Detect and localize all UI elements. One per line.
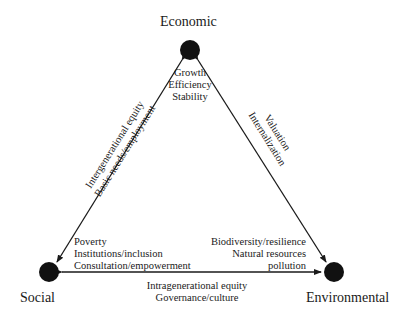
environmental-notes: Biodiversity/resilience Natural resource… (196, 236, 306, 272)
economic-note: Stability (160, 91, 220, 103)
social-notes: Poverty Institutions/inclusion Consultat… (74, 236, 191, 272)
triangle-diagram (0, 0, 405, 320)
edge-note: Intragenerational equity (132, 280, 262, 292)
environmental-note: Natural resources (196, 248, 306, 260)
node-environmental (324, 262, 344, 282)
node-social (39, 262, 59, 282)
edge-note: Governance/culture (132, 292, 262, 304)
social-note: Consultation/empowerment (74, 260, 191, 272)
social-note: Poverty (74, 236, 191, 248)
economic-note: Efficiency (160, 79, 220, 91)
label-economic: Economic (160, 14, 217, 30)
social-note: Institutions/inclusion (74, 248, 191, 260)
environmental-note: Biodiversity/resilience (196, 236, 306, 248)
economic-notes: Growth Efficiency Stability (160, 67, 220, 103)
node-economic (180, 40, 200, 60)
economic-note: Growth (160, 67, 220, 79)
edge-label-social-environmental: Intragenerational equity Governance/cult… (132, 280, 262, 304)
label-environmental: Environmental (306, 290, 389, 306)
label-social: Social (20, 290, 55, 306)
environmental-note: pollution (196, 260, 306, 272)
